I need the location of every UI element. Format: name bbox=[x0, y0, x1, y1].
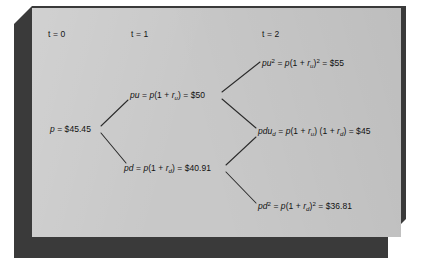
tree-node-up: pu = p(1 + ru) = $50 bbox=[130, 90, 205, 101]
period-label-t1: t = 1 bbox=[131, 29, 148, 39]
period-label-t0: t = 0 bbox=[48, 29, 65, 39]
period-label-t2: t = 2 bbox=[262, 29, 279, 39]
tree-node-root: p = $45.45 bbox=[50, 124, 91, 134]
tree-node-up-up: pu2 = p(1 + ru)2 = $55 bbox=[262, 57, 344, 69]
tree-node-down: pd = p(1 + rd) = $40.91 bbox=[124, 163, 211, 174]
tree-node-up-down: pdud = p(1 + ru) (1 + rd) = $45 bbox=[258, 126, 370, 137]
binomial-tree-figure: t = 0 t = 1 t = 2 p = $45.45 pu = p(1 + … bbox=[0, 0, 421, 272]
tree-node-down-down: pd2 = p(1 + rd)2 = $36.81 bbox=[258, 200, 352, 212]
